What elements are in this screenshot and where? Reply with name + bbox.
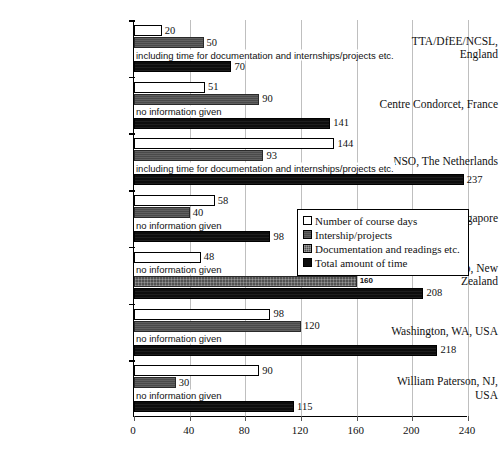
bar-row: 70 <box>134 61 467 72</box>
y-tick-mark <box>129 20 135 22</box>
y-tick-mark <box>129 190 135 192</box>
bar-row: 115 <box>134 401 467 412</box>
bar-row: 237 <box>134 174 467 185</box>
x-tick-label: 160 <box>347 424 364 436</box>
bar-value-label: 237 <box>464 174 483 185</box>
x-tick-label: 240 <box>459 424 476 436</box>
legend-label: Documentation and readings etc. <box>315 243 460 255</box>
legend-swatch-icon <box>303 230 312 239</box>
legend-item: Total amount of time <box>303 256 463 269</box>
bar-row: 218 <box>134 345 467 356</box>
bar-total <box>134 401 294 412</box>
x-tick-mark <box>301 416 302 421</box>
bar-value-label: 218 <box>437 344 456 355</box>
bar-row: 51 <box>134 82 467 93</box>
bar-total <box>134 118 330 129</box>
bar-total <box>134 231 270 242</box>
bar-intern <box>134 150 263 161</box>
chart-legend: Number of course daysIntership/projectsD… <box>297 209 469 276</box>
bar-row: 208 <box>134 288 467 299</box>
x-tick-mark <box>357 416 358 421</box>
x-tick-mark <box>412 416 413 421</box>
bar-value-label: 208 <box>423 288 442 299</box>
bar-value-label: 90 <box>259 365 273 376</box>
legend-swatch-icon <box>303 258 312 267</box>
bar-value-label: 90 <box>259 93 273 104</box>
no-information-note: no information given <box>135 264 223 275</box>
bar-course <box>134 252 201 263</box>
bar-value-label: 58 <box>215 195 229 206</box>
bar-value-label: 70 <box>231 61 245 72</box>
y-tick-mark <box>129 304 135 306</box>
category-label: Washington, WA, USA <box>373 325 503 339</box>
bar-value-label: 98 <box>270 308 284 319</box>
bar-row: 98 <box>134 309 467 320</box>
bar-chart: 2050including time for documentation and… <box>0 0 503 459</box>
bar-course <box>134 82 205 93</box>
x-tick-label: 80 <box>239 424 250 436</box>
legend-label: Intership/projects <box>315 229 392 241</box>
category-label-line: Zealand <box>373 275 498 289</box>
no-information-note: no information given <box>135 333 223 344</box>
bar-value-label: 160 <box>357 277 373 286</box>
y-tick-mark <box>129 133 135 135</box>
bar-total <box>134 345 437 356</box>
bar-intern <box>134 207 190 218</box>
bar-value-label: 30 <box>176 377 190 388</box>
category-label-line: William Paterson, NJ, <box>373 375 498 389</box>
bar-value-label: 141 <box>330 117 349 128</box>
no-information-note: no information given <box>135 219 223 230</box>
legend-label: Number of course days <box>315 215 417 227</box>
bar-value-label: 50 <box>204 37 218 48</box>
bar-value-label: 120 <box>301 320 320 331</box>
x-tick-label: 40 <box>183 424 194 436</box>
bar-course <box>134 138 334 149</box>
category-label-line: Centre Condorcet, France <box>373 98 498 112</box>
bar-intern <box>134 37 204 48</box>
y-tick-mark <box>129 77 135 79</box>
bar-total <box>134 174 464 185</box>
bar-value-label: 48 <box>201 252 215 263</box>
legend-item: Documentation and readings etc. <box>303 242 463 255</box>
category-label-line: TTA/DfEE/NCSL, <box>373 35 498 49</box>
bar-value-label: 51 <box>205 81 219 92</box>
bar-value-label: 98 <box>270 231 284 242</box>
bar-course <box>134 309 270 320</box>
y-tick-mark <box>129 247 135 249</box>
no-information-note: including time for documentation and int… <box>135 162 395 173</box>
bar-value-label: 93 <box>263 150 277 161</box>
bar-intern <box>134 377 176 388</box>
bar-value-label: 20 <box>162 25 176 36</box>
x-tick-mark <box>134 416 135 421</box>
bar-intern <box>134 94 259 105</box>
bar-row: 141 <box>134 118 467 129</box>
legend-swatch-icon <box>303 244 312 253</box>
category-label: William Paterson, NJ,USA <box>373 375 503 402</box>
bar-total <box>134 288 423 299</box>
category-label-line: Washington, WA, USA <box>373 325 498 339</box>
x-tick-label: 200 <box>403 424 420 436</box>
y-tick-mark <box>129 360 135 362</box>
bar-course <box>134 195 215 206</box>
bar-course <box>134 365 259 376</box>
no-information-note: no information given <box>135 389 223 400</box>
x-tick-label: 120 <box>292 424 309 436</box>
bar-docs <box>134 276 357 287</box>
x-tick-label: 0 <box>130 424 136 436</box>
bar-row: 144 <box>134 138 467 149</box>
bar-value-label: 40 <box>190 207 204 218</box>
legend-item: Number of course days <box>303 214 463 227</box>
category-label-line: USA <box>373 389 498 403</box>
category-label: Centre Condorcet, France <box>373 98 503 112</box>
x-tick-mark <box>245 416 246 421</box>
x-tick-mark <box>190 416 191 421</box>
x-tick-mark <box>468 416 469 421</box>
legend-item: Intership/projects <box>303 228 463 241</box>
legend-swatch-icon <box>303 216 312 225</box>
bar-total <box>134 61 231 72</box>
bar-course <box>134 25 162 36</box>
no-information-note: including time for documentation and int… <box>135 49 395 60</box>
legend-label: Total amount of time <box>315 257 407 269</box>
bar-row: 58 <box>134 195 467 206</box>
bar-value-label: 115 <box>294 401 312 412</box>
